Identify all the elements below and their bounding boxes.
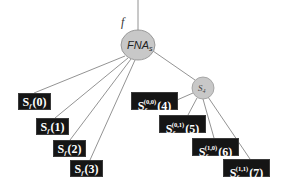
leaf-sf-11-7: Sf(1,1)(7) xyxy=(223,159,270,177)
edge-root-leaf2 xyxy=(70,59,131,140)
leaf-sf-3: Sf(3) xyxy=(70,160,103,177)
edge-s4-leaf4 xyxy=(177,93,193,100)
leaf-sf-01-5: Sf(0,1)(5) xyxy=(159,115,206,133)
leaf-sub: f xyxy=(172,129,174,137)
leaf-sf-2: Sf(2) xyxy=(53,140,86,157)
leaf-index: (3) xyxy=(85,162,99,176)
edge-root-s4 xyxy=(153,51,195,80)
leaf-sub: f xyxy=(236,173,238,181)
leaf-sf-10-6: Sf(1,0)(6) xyxy=(192,138,239,156)
leaf-index: (5) xyxy=(185,122,199,136)
input-label-f: f xyxy=(121,15,124,30)
leaf-sub: f xyxy=(144,106,146,114)
leaf-sub: f xyxy=(29,102,31,110)
leaf-sub: f xyxy=(205,152,207,160)
leaf-sup: (0,1) xyxy=(172,121,184,128)
leaf-sub: f xyxy=(64,149,66,157)
leaf-sf-1: Sf(1) xyxy=(36,118,69,135)
leaf-index: (1) xyxy=(51,120,65,134)
edge-root-leaf0 xyxy=(34,56,125,93)
leaf-sub: f xyxy=(47,127,49,135)
leaf-sf-00-4: Sf(0,0)(4) xyxy=(131,92,178,110)
edge-root-leaf1 xyxy=(55,58,128,118)
leaf-sub: f xyxy=(81,169,83,177)
leaf-index: (4) xyxy=(157,99,171,113)
leaf-index: (6) xyxy=(218,145,232,159)
edge-s4-leaf5 xyxy=(188,98,197,115)
leaf-index: (2) xyxy=(68,142,82,156)
leaf-sup: (1,0) xyxy=(205,144,217,151)
leaf-index: (7) xyxy=(249,166,263,180)
leaf-sup: (1,1) xyxy=(236,165,248,172)
leaf-index: (0) xyxy=(33,95,47,109)
leaf-sup: (0,0) xyxy=(144,98,156,105)
leaf-sf-0: Sf(0) xyxy=(18,93,51,110)
edge-root-leaf3 xyxy=(90,60,135,160)
